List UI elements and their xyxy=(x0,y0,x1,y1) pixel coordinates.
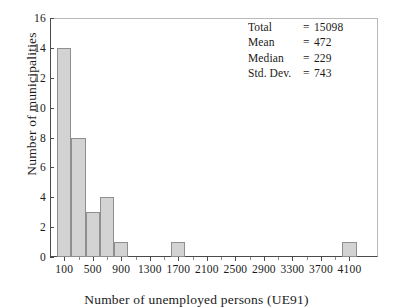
stat-value-mean: 472 xyxy=(314,35,332,50)
x-tick-mark-minor xyxy=(307,257,308,260)
x-tick-label: 3300 xyxy=(281,263,305,275)
stat-equals: = xyxy=(303,51,314,66)
stat-label-median: Median xyxy=(248,51,303,66)
x-tick-mark xyxy=(64,257,65,261)
y-tick-mark xyxy=(50,167,54,168)
stat-value-total: 15098 xyxy=(314,20,343,35)
x-tick-mark-minor xyxy=(250,257,251,260)
y-tick-mark xyxy=(50,18,54,19)
x-tick-mark xyxy=(207,257,208,261)
y-tick-label: 4 xyxy=(0,191,46,203)
y-tick-label: 14 xyxy=(0,42,46,54)
x-tick-mark xyxy=(264,257,265,261)
y-tick-mark xyxy=(50,197,54,198)
y-tick-label: 10 xyxy=(0,102,46,114)
x-tick-label: 3700 xyxy=(309,263,333,275)
x-tick-mark xyxy=(292,257,293,261)
stat-value-median: 229 xyxy=(314,51,332,66)
histogram-bar xyxy=(114,242,128,257)
x-tick-mark-minor xyxy=(164,257,165,260)
x-tick-label: 2500 xyxy=(223,263,247,275)
x-tick-mark-minor xyxy=(278,257,279,260)
stat-label-stddev: Std. Dev. xyxy=(248,66,303,81)
stat-row-total: Total = 15098 xyxy=(248,20,343,35)
y-tick-label: 6 xyxy=(0,161,46,173)
x-tick-label: 2900 xyxy=(252,263,276,275)
x-tick-label: 1300 xyxy=(138,263,162,275)
x-tick-label: 1700 xyxy=(166,263,190,275)
x-tick-mark-minor xyxy=(335,257,336,260)
stat-equals: = xyxy=(303,20,314,35)
x-tick-mark xyxy=(121,257,122,261)
histogram-bar xyxy=(57,48,71,257)
x-tick-mark xyxy=(321,257,322,261)
stat-equals: = xyxy=(303,35,314,50)
x-axis-title: Number of unemployed persons (UE91) xyxy=(0,292,393,308)
x-tick-label: 4100 xyxy=(338,263,362,275)
x-tick-mark xyxy=(235,257,236,261)
y-tick-mark xyxy=(50,48,54,49)
x-tick-mark xyxy=(349,257,350,261)
x-tick-mark xyxy=(150,257,151,261)
y-tick-label: 2 xyxy=(0,221,46,233)
y-tick-label: 16 xyxy=(0,12,46,24)
x-tick-mark-minor xyxy=(107,257,108,260)
x-tick-mark xyxy=(178,257,179,261)
y-tick-mark xyxy=(50,78,54,79)
y-tick-mark xyxy=(50,227,54,228)
x-tick-mark-minor xyxy=(193,257,194,260)
histogram-bar xyxy=(86,212,100,257)
histogram-bar xyxy=(100,197,114,257)
x-tick-label: 500 xyxy=(84,263,102,275)
histogram-bar xyxy=(71,138,85,258)
stat-label-total: Total xyxy=(248,20,303,35)
stat-equals: = xyxy=(303,66,314,81)
x-tick-mark-minor xyxy=(79,257,80,260)
y-tick-label: 8 xyxy=(0,132,46,144)
x-tick-label: 900 xyxy=(112,263,130,275)
x-tick-mark xyxy=(93,257,94,261)
x-tick-mark-minor xyxy=(136,257,137,260)
x-tick-label: 100 xyxy=(55,263,73,275)
histogram-bar xyxy=(171,242,185,257)
stat-value-stddev: 743 xyxy=(314,66,332,81)
y-tick-label: 0 xyxy=(0,251,46,263)
stat-label-mean: Mean xyxy=(248,35,303,50)
x-tick-mark-minor xyxy=(221,257,222,260)
y-tick-mark xyxy=(50,257,54,258)
y-tick-label: 12 xyxy=(0,72,46,84)
stat-row-median: Median = 229 xyxy=(248,51,343,66)
y-tick-mark xyxy=(50,108,54,109)
x-tick-label: 2100 xyxy=(195,263,219,275)
statistics-box: Total = 15098 Mean = 472 Median = 229 St… xyxy=(248,20,343,81)
stat-row-stddev: Std. Dev. = 743 xyxy=(248,66,343,81)
y-tick-mark xyxy=(50,138,54,139)
histogram-bar xyxy=(342,242,356,257)
stat-row-mean: Mean = 472 xyxy=(248,35,343,50)
